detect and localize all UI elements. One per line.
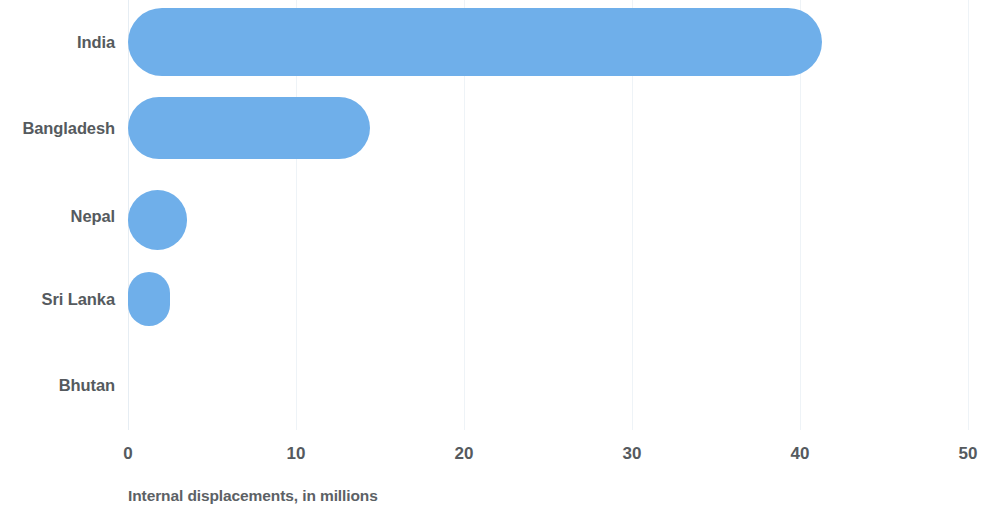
- plot-area: [128, 0, 968, 430]
- bar-row: [128, 190, 968, 250]
- bar-bangladesh: [128, 97, 370, 159]
- bar-india: [128, 8, 822, 76]
- x-tick-label-20: 20: [455, 444, 474, 464]
- x-axis-label: Internal displacements, in millions: [128, 487, 378, 505]
- bar-chart: India Bangladesh Nepal Sri Lanka Bhutan …: [0, 0, 989, 519]
- bar-row: [128, 97, 968, 159]
- bar-row: [128, 272, 968, 326]
- x-tick-label-10: 10: [287, 444, 306, 464]
- category-label-bangladesh: Bangladesh: [2, 119, 115, 138]
- x-tick-label-0: 0: [123, 444, 132, 464]
- x-tick-label-30: 30: [623, 444, 642, 464]
- bar-row: [128, 358, 968, 414]
- gridline-50: [968, 0, 969, 430]
- category-label-sri-lanka: Sri Lanka: [2, 290, 115, 309]
- y-axis-category-labels: India Bangladesh Nepal Sri Lanka Bhutan: [0, 0, 115, 430]
- category-label-nepal: Nepal: [2, 207, 115, 226]
- x-axis: 0 10 20 30 40 50: [128, 430, 968, 470]
- bar-nepal: [128, 190, 187, 250]
- bar-row: [128, 8, 968, 76]
- bar-sri-lanka: [128, 272, 170, 326]
- category-label-bhutan: Bhutan: [2, 376, 115, 395]
- x-tick-label-40: 40: [791, 444, 810, 464]
- x-tick-label-50: 50: [959, 444, 978, 464]
- category-label-india: India: [2, 33, 115, 52]
